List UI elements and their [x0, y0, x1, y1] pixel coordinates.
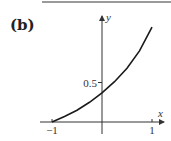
x-tick-label: 1	[149, 124, 155, 136]
plot-area: −110.5 x y	[0, 0, 171, 141]
x-tick-label: −1	[46, 124, 58, 136]
y-axis-label: y	[105, 11, 111, 23]
x-axis-label: x	[157, 107, 163, 119]
y-tick-label: 0.5	[83, 77, 97, 89]
